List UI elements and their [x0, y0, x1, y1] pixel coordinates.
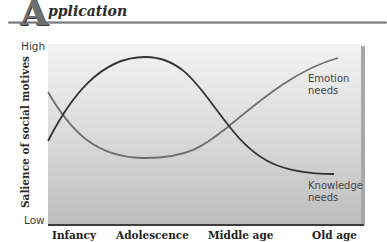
knowledge-label-line2: needs	[308, 192, 378, 204]
emotion-needs-label: Emotion needs	[308, 73, 378, 97]
emotion-label-line1: Emotion	[308, 73, 378, 85]
emotion-label-line2: needs	[308, 85, 378, 97]
x-tick-adolescence: Adolescence	[116, 229, 189, 241]
knowledge-needs-curve	[48, 57, 334, 174]
chart-curves	[0, 0, 387, 242]
x-tick-old-age: Old age	[312, 229, 357, 241]
x-tick-infancy: Infancy	[52, 229, 96, 241]
y-tick-high: High	[21, 40, 45, 52]
y-tick-low: Low	[24, 214, 45, 226]
x-tick-middle-age: Middle age	[208, 229, 273, 241]
emotion-needs-curve	[48, 58, 338, 158]
knowledge-needs-label: Knowledge needs	[308, 180, 378, 204]
knowledge-label-line1: Knowledge	[308, 180, 378, 192]
y-axis-title: Salience of social motives	[19, 58, 31, 208]
